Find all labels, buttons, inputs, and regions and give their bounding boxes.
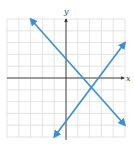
coordinate-plane-chart: x y <box>0 0 134 145</box>
chart-svg: x y <box>0 0 134 145</box>
axes: x y <box>7 7 131 140</box>
x-axis-label: x <box>126 74 131 83</box>
y-axis-label: y <box>63 7 69 16</box>
